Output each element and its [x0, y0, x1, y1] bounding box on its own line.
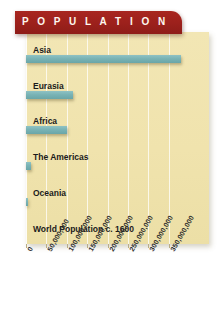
population-chart-figure: P O P U L A T I O N AsiaEurasiaAfricaThe…	[0, 0, 223, 314]
gridline-0	[26, 32, 27, 244]
gridline-5	[128, 32, 129, 244]
bar-africa	[26, 126, 67, 134]
gridline-2	[67, 32, 68, 244]
plot-panel	[26, 32, 209, 244]
category-label-africa: Africa	[33, 116, 57, 126]
chart-title: P O P U L A T I O N	[22, 15, 168, 29]
bar-oceania	[26, 198, 28, 206]
gridline-1	[46, 32, 47, 244]
category-label-the-americas: The Americas	[33, 152, 88, 162]
bar-asia	[26, 55, 181, 63]
bar-eurasia	[26, 91, 73, 99]
gridline-6	[148, 32, 149, 244]
x-tick-label-0: 0	[26, 246, 34, 253]
gridline-7	[169, 32, 170, 244]
category-label-asia: Asia	[33, 45, 51, 55]
bar-the-americas	[26, 162, 31, 170]
gridline-4	[108, 32, 109, 244]
category-label-oceania: Oceania	[33, 188, 66, 198]
gridline-3	[87, 32, 88, 244]
category-label-eurasia: Eurasia	[33, 81, 64, 91]
